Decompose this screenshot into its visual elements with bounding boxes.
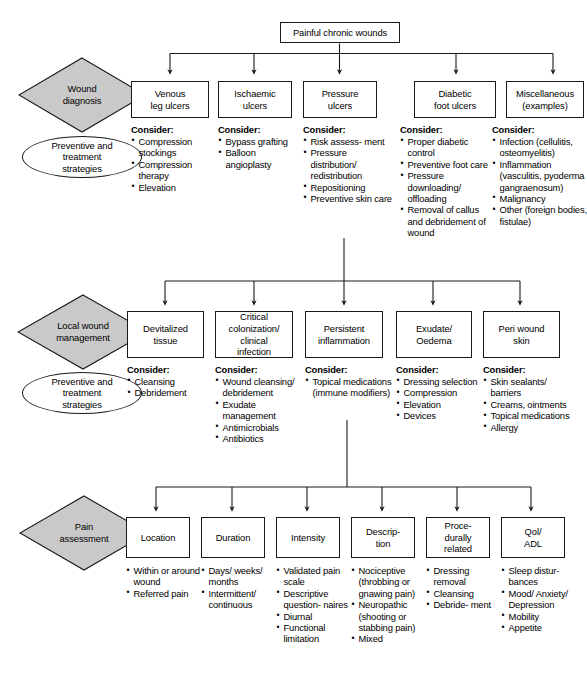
box-venous-leg-ulcers-label: Venous leg ulcers bbox=[150, 88, 189, 111]
list-item: Sleep distur- bances bbox=[501, 565, 581, 588]
consider-items: Validated pain scale Descriptive questio… bbox=[276, 565, 351, 645]
consider-pressure-ulcers: Consider: Risk assess- ment Pressure dis… bbox=[303, 124, 393, 204]
list-item: Diurnal bbox=[276, 611, 351, 622]
oval-strategies-1[interactable]: Preventive and treatment strategies bbox=[22, 136, 142, 178]
list-item: Preventive foot care bbox=[400, 159, 495, 170]
list-item: Pressure distribution/ redistribution bbox=[303, 147, 393, 181]
box-qol-adl[interactable]: Qol/ ADL bbox=[501, 517, 565, 558]
consider-venous-leg-ulcers: Consider: Compression stockings Compress… bbox=[131, 124, 215, 193]
consider-critical-colonization: Consider: Wound cleansing/ debridement E… bbox=[215, 364, 305, 444]
consider-heading: Consider: bbox=[400, 124, 495, 135]
consider-heading: Consider: bbox=[215, 364, 305, 375]
list-item: Exudate management bbox=[215, 399, 305, 422]
list-item: Antibiotics bbox=[215, 433, 305, 444]
box-devitalized-tissue[interactable]: Devitalized tissue bbox=[127, 311, 204, 358]
box-intensity-label: Intensity bbox=[291, 532, 325, 544]
consider-heading: Consider: bbox=[303, 124, 393, 135]
consider-devitalized-tissue: Consider: Cleansing Debridement bbox=[127, 364, 212, 399]
box-ischaemic-ulcers-label: Ischaemic ulcers bbox=[234, 88, 275, 111]
consider-heading: Consider: bbox=[218, 124, 302, 135]
consider-items: Within or around wound Referred pain bbox=[126, 565, 201, 599]
consider-heading: Consider: bbox=[127, 364, 212, 375]
consider-items: Risk assess- ment Pressure distribution/… bbox=[303, 136, 393, 204]
list-item: Dressing selection bbox=[396, 376, 484, 387]
consider-location: Within or around wound Referred pain bbox=[126, 565, 201, 599]
consider-duration: Days/ weeks/ months Intermittent/ contin… bbox=[201, 565, 276, 611]
box-critical-colonization-label: Critical colonization/ clinical infectio… bbox=[229, 311, 280, 357]
consider-miscellaneous: Consider: Infection (cellulitis, osteomy… bbox=[492, 124, 587, 227]
list-item: Mixed bbox=[351, 633, 429, 644]
oval-strategies-1-label: Preventive and treatment strategies bbox=[51, 140, 112, 174]
box-description[interactable]: Descrip- tion bbox=[351, 517, 415, 558]
box-procedurally-related[interactable]: Proce- durally related bbox=[426, 517, 490, 558]
diamond-wound-diagnosis-label: Wound diagnosis bbox=[18, 57, 146, 133]
root-box-label: Painful chronic wounds bbox=[293, 27, 387, 39]
list-item: Compression stockings bbox=[131, 136, 215, 159]
consider-peri-wound-skin: Consider: Skin sealants/ barriers Creams… bbox=[483, 364, 578, 433]
list-item: Cleansing bbox=[426, 588, 501, 599]
list-item: Skin sealants/ barriers bbox=[483, 376, 578, 399]
list-item: Mobility bbox=[501, 611, 581, 622]
box-exudate-oedema[interactable]: Exudate/ Oedema bbox=[396, 311, 472, 358]
box-miscellaneous[interactable]: Miscellaneous (examples) bbox=[506, 81, 584, 118]
list-item: Wound cleansing/ debridement bbox=[215, 376, 305, 399]
consider-items: Infection (cellulitis, osteomyelitis) In… bbox=[492, 136, 587, 227]
box-miscellaneous-label: Miscellaneous (examples) bbox=[516, 88, 574, 111]
list-item: Allergy bbox=[483, 422, 578, 433]
list-item: Debridement bbox=[127, 387, 212, 398]
box-peri-wound-skin[interactable]: Peri wound skin bbox=[483, 311, 560, 358]
consider-heading: Consider: bbox=[396, 364, 484, 375]
consider-heading: Consider: bbox=[305, 364, 393, 375]
box-qol-adl-label: Qol/ ADL bbox=[524, 526, 542, 549]
consider-items: Dressing removal Cleansing Debride- ment bbox=[426, 565, 501, 611]
list-item: Appetite bbox=[501, 622, 581, 633]
root-box[interactable]: Painful chronic wounds bbox=[280, 22, 400, 43]
list-item: Referred pain bbox=[126, 588, 201, 599]
list-item: Pressure downloading/ offloading bbox=[400, 170, 495, 204]
consider-items: Skin sealants/ barriers Creams, ointment… bbox=[483, 376, 578, 433]
box-critical-colonization[interactable]: Critical colonization/ clinical infectio… bbox=[215, 311, 293, 358]
consider-exudate-oedema: Consider: Dressing selection Compression… bbox=[396, 364, 484, 422]
list-item: Topical medications (immune modifiers) bbox=[305, 376, 393, 399]
list-item: Intermittent/ continuous bbox=[201, 588, 276, 611]
list-item: Nociceptive (throbbing or gnawing pain) bbox=[351, 565, 429, 599]
box-pressure-ulcers[interactable]: Pressure ulcers bbox=[303, 81, 377, 118]
box-persistent-inflammation[interactable]: Persistent inflammation bbox=[305, 311, 383, 358]
list-item: Infection (cellulitis, osteomyelitis) bbox=[492, 136, 587, 159]
box-peri-wound-skin-label: Peri wound skin bbox=[499, 323, 545, 346]
list-item: Validated pain scale bbox=[276, 565, 351, 588]
diamond-wound-diagnosis[interactable]: Wound diagnosis bbox=[18, 57, 146, 133]
list-item: Risk assess- ment bbox=[303, 136, 393, 147]
box-exudate-oedema-label: Exudate/ Oedema bbox=[416, 323, 452, 346]
bottom-caption bbox=[205, 674, 575, 681]
consider-heading: Consider: bbox=[483, 364, 578, 375]
box-venous-leg-ulcers[interactable]: Venous leg ulcers bbox=[131, 81, 209, 118]
list-item: Elevation bbox=[131, 182, 215, 193]
oval-strategies-2-label: Preventive and treatment strategies bbox=[51, 376, 112, 410]
oval-strategies-2[interactable]: Preventive and treatment strategies bbox=[22, 372, 142, 414]
list-item: Compression bbox=[396, 387, 484, 398]
list-item: Inflammation (vasculitis, pyoderma gangr… bbox=[492, 159, 587, 193]
consider-ischaemic-ulcers: Consider: Bypass grafting Balloon angiop… bbox=[218, 124, 302, 170]
box-diabetic-foot-ulcers[interactable]: Diabetic foot ulcers bbox=[414, 81, 496, 118]
consider-diabetic-foot-ulcers: Consider: Proper diabetic control Preven… bbox=[400, 124, 495, 239]
box-location[interactable]: Location bbox=[126, 517, 190, 558]
list-item: Creams, ointments bbox=[483, 399, 578, 410]
box-intensity[interactable]: Intensity bbox=[276, 517, 340, 558]
list-item: Cleansing bbox=[127, 376, 212, 387]
list-item: Functional limitation bbox=[276, 622, 351, 645]
consider-items: Nociceptive (throbbing or gnawing pain) … bbox=[351, 565, 429, 645]
list-item: Topical medications bbox=[483, 410, 578, 421]
list-item: Other (foreign bodies, fistulae) bbox=[492, 204, 587, 227]
list-item: Proper diabetic control bbox=[400, 136, 495, 159]
list-item: Within or around wound bbox=[126, 565, 201, 588]
box-ischaemic-ulcers[interactable]: Ischaemic ulcers bbox=[218, 81, 292, 118]
consider-persistent-inflammation: Consider: Topical medications (immune mo… bbox=[305, 364, 393, 399]
list-item: Removal of callus and debridement of wou… bbox=[400, 204, 495, 238]
consider-qol-adl: Sleep distur- bances Mood/ Anxiety/ Depr… bbox=[501, 565, 581, 633]
consider-heading: Consider: bbox=[492, 124, 587, 135]
box-duration[interactable]: Duration bbox=[201, 517, 265, 558]
list-item: Days/ weeks/ months bbox=[201, 565, 276, 588]
list-item: Antimicrobials bbox=[215, 422, 305, 433]
